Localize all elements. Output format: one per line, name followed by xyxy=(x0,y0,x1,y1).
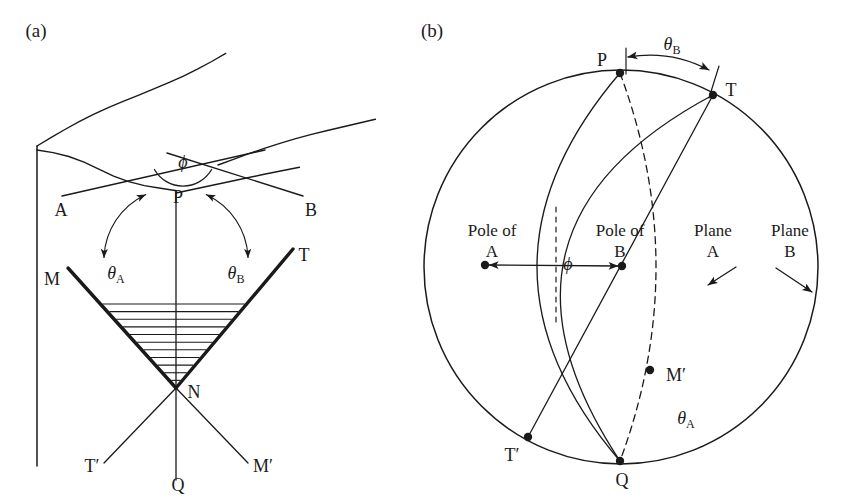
point-M-prime-label: M′ xyxy=(666,365,686,385)
label-pole-of-A-line2: A xyxy=(486,242,499,261)
label-M: M xyxy=(44,269,60,289)
label-plane-B-line1: Plane xyxy=(771,221,809,240)
label-plane-A-line2: A xyxy=(707,242,720,261)
point-Q xyxy=(616,457,624,465)
label-M-prime: M′ xyxy=(253,456,273,476)
pole-of-B-dot xyxy=(618,262,626,270)
label-N: N xyxy=(188,382,201,402)
label-P: P xyxy=(173,187,183,207)
pole-of-A-dot xyxy=(481,261,489,269)
point-T-prime-label: T′ xyxy=(505,445,520,465)
label-A: A xyxy=(55,200,68,220)
point-T xyxy=(709,91,717,99)
phi-label-panel-a: ϕ xyxy=(178,152,187,172)
phi-label-panel-b: ϕ xyxy=(563,254,572,274)
label-plane-A-line1: Plane xyxy=(694,221,732,240)
point-P xyxy=(616,69,624,77)
panel-a-label: (a) xyxy=(25,20,46,42)
figure-svg: (a)ϕθAθBABPMTNT′M′Q (b)ϕθBθAPole ofAPole… xyxy=(0,0,847,502)
point-T-label: T xyxy=(726,80,737,100)
label-T: T xyxy=(299,245,310,265)
label-B: B xyxy=(305,200,317,220)
point-Q-label: Q xyxy=(616,470,629,490)
label-pole-of-B-line2: B xyxy=(614,242,625,261)
point-M-prime xyxy=(646,366,654,374)
label-pole-of-A-line1: Pole of xyxy=(468,221,517,240)
figure-background xyxy=(0,0,847,502)
panel-b-label: (b) xyxy=(421,20,443,42)
figure-root: (a)ϕθAθBABPMTNT′M′Q (b)ϕθBθAPole ofAPole… xyxy=(0,0,847,502)
label-plane-B-line2: B xyxy=(784,242,795,261)
label-Q: Q xyxy=(172,475,185,495)
label-T-prime: T′ xyxy=(85,456,100,476)
point-T-prime xyxy=(524,433,532,441)
label-pole-of-B-line1: Pole of xyxy=(596,221,645,240)
point-P-label: P xyxy=(597,50,607,70)
